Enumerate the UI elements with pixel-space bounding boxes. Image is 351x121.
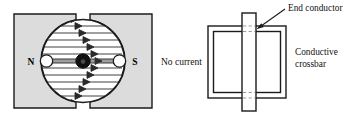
end-conductor-label: End conductor bbox=[288, 3, 343, 13]
north-pole-label: N bbox=[28, 57, 35, 67]
conductive-crossbar-label-line1: Conductive bbox=[295, 47, 338, 57]
conductive-crossbar-label-line2: crossbar bbox=[295, 59, 327, 69]
south-pole-label: S bbox=[132, 57, 137, 67]
conductive-crossbar-body bbox=[242, 13, 256, 111]
magnet-assembly: N S bbox=[14, 14, 152, 108]
rotor-hub-center bbox=[81, 59, 86, 64]
left-bearing-circle bbox=[40, 55, 52, 67]
figure-canvas: N S No current bbox=[0, 0, 351, 121]
no-current-caption: No current bbox=[161, 57, 202, 67]
physics-figure: N S No current bbox=[0, 0, 351, 121]
conductor-loop-assembly bbox=[208, 9, 286, 111]
right-bearing-circle bbox=[113, 55, 125, 67]
